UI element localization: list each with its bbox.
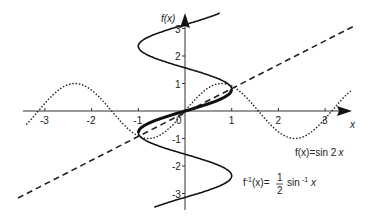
x-tick-label: -3 <box>40 115 49 126</box>
x-tick-label: -2 <box>87 115 96 126</box>
y-tick-label: 1 <box>175 79 181 90</box>
y-tick-label: -3 <box>172 189 181 200</box>
y-tick-label: -2 <box>172 161 181 172</box>
svg-text:sin-1x: sin-1x <box>287 176 317 188</box>
x-tick-label: 2 <box>275 115 281 126</box>
y-tick-label: -1 <box>172 134 181 145</box>
x-axis-arrow-icon <box>337 106 352 116</box>
svg-text:f-1(x)=: f-1(x)= <box>243 176 270 188</box>
y-tick-label: 3 <box>175 24 181 35</box>
origin-label: 0 <box>176 115 182 126</box>
svg-text:2: 2 <box>277 185 283 196</box>
y-axis-label: f(x) <box>161 13 175 24</box>
x-axis-label: x <box>349 119 356 130</box>
y-tick-label: 2 <box>175 51 181 62</box>
function-inverse-chart: -3-2-1123 -3-2-1123 f(x) x 0 f(x)=sin 2x… <box>0 0 374 218</box>
svg-text:1: 1 <box>277 172 283 183</box>
inverse-annotation: f-1(x)= 1 2 sin-1x <box>243 172 317 196</box>
x-tick-label: 1 <box>229 115 235 126</box>
sin2x-annotation: f(x)=sin 2x <box>295 147 344 158</box>
x-tick-label: -1 <box>133 115 142 126</box>
